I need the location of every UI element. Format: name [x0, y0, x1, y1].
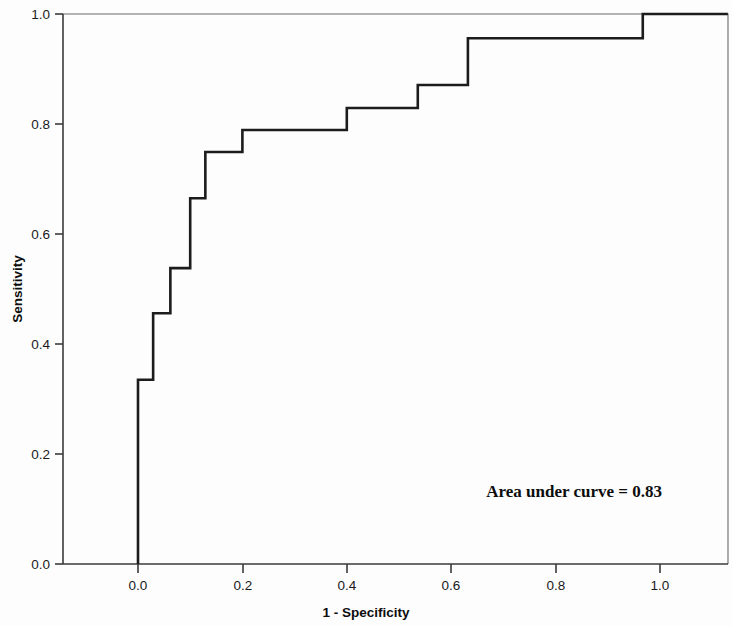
x-axis-tick-labels: 0.0 0.2 0.4 0.6 0.8 1.0: [129, 578, 670, 593]
y-tick-label-4: 0.8: [31, 117, 50, 132]
x-tick-label-4: 0.8: [547, 578, 566, 593]
y-tick-label-5: 1.0: [31, 7, 50, 22]
roc-chart-svg: 1.0 0.8 0.6 0.4 0.2 0.0 0.0 0.2 0.4 0.6 …: [0, 0, 732, 626]
x-axis-ticks: [138, 564, 660, 573]
y-tick-label-3: 0.6: [31, 227, 50, 242]
x-tick-label-1: 0.2: [234, 578, 253, 593]
x-tick-label-0: 0.0: [129, 578, 148, 593]
y-axis-title: Sensitivity: [10, 255, 25, 323]
y-axis-tick-labels: 1.0 0.8 0.6 0.4 0.2 0.0: [31, 7, 50, 572]
y-axis-ticks: [55, 14, 63, 564]
roc-curve-figure: 1.0 0.8 0.6 0.4 0.2 0.0 0.0 0.2 0.4 0.6 …: [0, 0, 732, 626]
x-tick-label-5: 1.0: [651, 578, 670, 593]
auc-annotation-label: Area under curve = 0.83: [486, 482, 662, 501]
y-tick-label-2: 0.4: [31, 337, 50, 352]
x-axis-title: 1 - Specificity: [322, 605, 410, 620]
x-tick-label-2: 0.4: [338, 578, 357, 593]
y-tick-label-1: 0.2: [31, 447, 50, 462]
y-tick-label-0: 0.0: [31, 557, 50, 572]
x-tick-label-3: 0.6: [442, 578, 461, 593]
